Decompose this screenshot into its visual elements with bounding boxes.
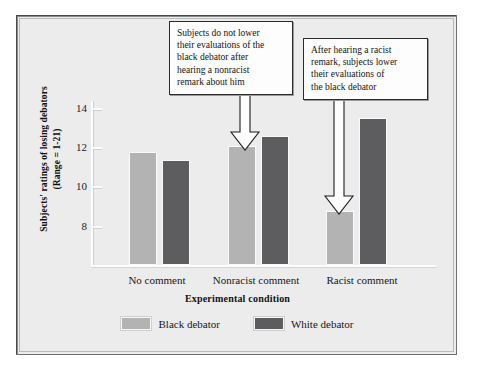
bar-no-comment-black-debator — [129, 152, 157, 265]
plot-area: Subjects' ratings of losing debators (Ra… — [17, 16, 458, 356]
annotation-line-1: Subjects do not lower — [177, 27, 285, 39]
chart-figure: Subjects' ratings of losing debators (Ra… — [0, 0, 480, 373]
chart-legend: Black debator White debator — [17, 317, 458, 330]
x-axis-line — [91, 265, 436, 267]
y-tick-label-10: 10 — [63, 180, 87, 192]
bar-racist-comment-white-debator — [359, 118, 387, 265]
y-tick-label-12: 12 — [63, 141, 87, 153]
bar-racist-comment-black-debator — [326, 211, 354, 265]
y-tick-label-8: 8 — [63, 220, 87, 232]
annotation-arrow-nonracist — [229, 90, 261, 152]
x-category-label-nonracist-comment: Nonracist comment — [196, 274, 316, 286]
x-category-label-no-comment: No comment — [107, 274, 207, 286]
y-tick-label-14: 14 — [63, 102, 87, 114]
x-axis-title: Experimental condition — [17, 293, 458, 304]
bar-no-comment-white-debator — [162, 160, 190, 265]
annotation-line-4: hearing a nonracist — [177, 64, 285, 76]
annotation-line-3: black debator after — [177, 51, 285, 63]
annotation-line-5: remark about him — [177, 76, 285, 88]
legend-label-white-debator: White debator — [291, 318, 354, 330]
legend-swatch-white-debator — [254, 317, 284, 330]
legend-item-black-debator: Black debator — [121, 317, 219, 330]
y-tick-12 — [93, 147, 102, 149]
annotation-callout-nonracist: Subjects do not lower their evaluations … — [169, 21, 293, 95]
x-category-label-racist-comment: Racist comment — [307, 274, 417, 286]
y-tick-14 — [93, 108, 102, 110]
annotation2-line-4: the black debator — [311, 81, 420, 93]
annotation-callout-racist: After hearing a racist remark, subjects … — [303, 38, 428, 100]
y-tick-labels: 14 12 10 8 — [59, 16, 87, 356]
bar-nonracist-comment-black-debator — [228, 146, 256, 265]
bar-nonracist-comment-white-debator — [261, 136, 289, 265]
annotation2-line-1: After hearing a racist — [311, 44, 420, 56]
legend-swatch-black-debator — [121, 317, 151, 330]
annotation-arrow-racist — [323, 86, 355, 216]
annotation2-line-3: their evaluations of — [311, 68, 420, 80]
y-tick-8 — [93, 226, 102, 228]
y-axis-title-line1: Subjects' ratings of losing debators — [38, 59, 51, 259]
legend-label-black-debator: Black debator — [158, 318, 219, 330]
y-tick-10 — [93, 186, 102, 188]
y-axis-line — [91, 101, 93, 267]
annotation-line-2: their evaluations of the — [177, 39, 285, 51]
annotation2-line-2: remark, subjects lower — [311, 56, 420, 68]
chart-panel: Subjects' ratings of losing debators (Ra… — [16, 15, 457, 355]
legend-item-white-debator: White debator — [254, 317, 354, 330]
